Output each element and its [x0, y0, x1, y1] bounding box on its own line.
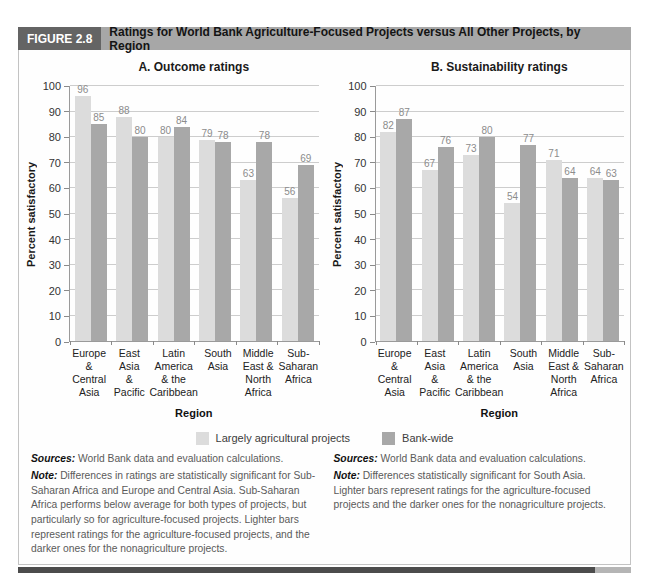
bar: 64 — [587, 178, 603, 341]
y-tick-label: 60 — [354, 182, 366, 194]
bar-value-label: 67 — [424, 158, 435, 169]
y-tick: 50 — [354, 208, 374, 220]
category-label: SouthAsia — [198, 347, 238, 400]
bar: 78 — [256, 142, 272, 341]
note-text: Differences statistically significant fo… — [334, 470, 606, 510]
y-tick: 80 — [354, 131, 374, 143]
legend-item-bankwide: Bank-wide — [382, 432, 453, 445]
bar-group: 8880 — [111, 86, 152, 341]
bar: 80 — [132, 137, 148, 341]
x-tick-mark — [500, 341, 501, 345]
bar-value-label: 54 — [507, 191, 518, 202]
bar-value-label: 69 — [300, 153, 311, 164]
y-tick-label: 30 — [354, 259, 366, 271]
bar: 69 — [298, 165, 314, 341]
figure-bottom-rule-tip — [595, 567, 631, 573]
chart-panel-sustainability: B. Sustainability ratings Percent satisf… — [331, 58, 625, 419]
y-tick-label: 70 — [49, 157, 61, 169]
x-tick-mark — [111, 341, 112, 345]
bar-value-label: 87 — [399, 107, 410, 118]
y-tick: 30 — [354, 259, 374, 271]
figure-bottom-rule — [18, 567, 631, 573]
x-tick-mark — [70, 341, 71, 345]
y-tick: 30 — [49, 259, 69, 271]
bar-value-label: 96 — [77, 84, 88, 95]
category-label: Europe&CentralAsia — [69, 347, 109, 400]
legend-label-bankwide: Bank-wide — [402, 432, 453, 444]
bar-value-label: 80 — [481, 125, 492, 136]
bar: 96 — [75, 96, 91, 341]
bar-value-label: 77 — [523, 133, 534, 144]
sources-text: World Bank data and evaluation calculati… — [78, 453, 283, 464]
legend: Largely agricultural projects Bank-wide — [25, 432, 624, 445]
x-tick-mark — [541, 341, 542, 345]
bar-value-label: 88 — [119, 105, 130, 116]
y-tick: 50 — [49, 208, 69, 220]
bar: 77 — [520, 145, 536, 341]
sources-text: World Bank data and evaluation calculati… — [380, 453, 585, 464]
y-tick-label: 70 — [354, 157, 366, 169]
chart-title-sustainability: B. Sustainability ratings — [375, 60, 625, 74]
chart-panel-outcome: A. Outcome ratings Percent satisfactory … — [25, 58, 319, 419]
bar: 56 — [282, 198, 298, 341]
bar-value-label: 80 — [160, 125, 171, 136]
bar: 73 — [463, 155, 479, 341]
y-tick-label: 50 — [49, 208, 61, 220]
x-tick-mark — [458, 341, 459, 345]
category-label: Europe&CentralAsia — [375, 347, 415, 400]
bar-group: 8287 — [376, 86, 417, 341]
x-tick-mark — [236, 341, 237, 345]
category-label: LatinAmerica& theCaribbean — [149, 347, 197, 400]
bar-group: 6378 — [236, 86, 277, 341]
y-tick-label: 0 — [360, 336, 366, 348]
bar: 76 — [438, 147, 454, 341]
bar-group: 5669 — [277, 86, 318, 341]
plot-area: 968588808084797863785669 — [69, 86, 319, 342]
y-tick-label: 10 — [49, 310, 61, 322]
y-tick-label: 100 — [348, 80, 366, 92]
bar-value-label: 63 — [243, 168, 254, 179]
y-tick-label: 100 — [43, 80, 61, 92]
x-axis-title: Region — [375, 407, 625, 419]
bar: 64 — [562, 178, 578, 341]
y-tick: 10 — [354, 310, 374, 322]
chart-area: Percent satisfactory 0102030405060708090… — [25, 86, 319, 342]
y-tick: 70 — [49, 157, 69, 169]
x-tick-mark — [376, 341, 377, 345]
bar-group: 7380 — [458, 86, 499, 341]
y-tick: 20 — [354, 285, 374, 297]
x-tick-mark — [194, 341, 195, 345]
plot-area: 828767767380547771646463 — [375, 86, 625, 342]
figure-body: A. Outcome ratings Percent satisfactory … — [18, 50, 631, 565]
x-axis-categories: Europe&CentralAsiaEast Asia&PacificLatin… — [375, 347, 625, 400]
bar: 54 — [504, 203, 520, 341]
sources-line: Sources: World Bank data and evaluation … — [334, 452, 619, 467]
sources-label: Sources: — [334, 453, 378, 464]
bar: 80 — [158, 137, 174, 341]
y-tick: 100 — [348, 80, 374, 92]
y-tick: 90 — [49, 106, 69, 118]
bar: 67 — [422, 170, 438, 341]
y-tick-label: 60 — [49, 182, 61, 194]
category-label: MiddleEast &NorthAfrica — [544, 347, 584, 400]
bar: 84 — [174, 127, 190, 341]
y-tick: 10 — [49, 310, 69, 322]
bar-group: 6463 — [583, 86, 624, 341]
y-tick: 90 — [354, 106, 374, 118]
bar: 80 — [479, 137, 495, 341]
note-label: Note: — [334, 470, 360, 481]
y-tick-label: 20 — [49, 285, 61, 297]
y-tick: 20 — [49, 285, 69, 297]
figure-number-label: FIGURE 2.8 — [18, 27, 101, 50]
category-label: East Asia&Pacific — [109, 347, 149, 400]
y-tick: 60 — [354, 182, 374, 194]
note-line: Note: Differences in ratings are statist… — [31, 469, 316, 557]
bar: 82 — [380, 132, 396, 341]
x-axis-categories: Europe&CentralAsiaEast Asia&PacificLatin… — [69, 347, 319, 400]
bar-value-label: 63 — [606, 168, 617, 179]
bar: 85 — [91, 124, 107, 341]
bar-value-label: 78 — [217, 130, 228, 141]
figure-header: FIGURE 2.8 Ratings for World Bank Agricu… — [18, 27, 631, 50]
footnote-left: Sources: World Bank data and evaluation … — [31, 452, 316, 560]
